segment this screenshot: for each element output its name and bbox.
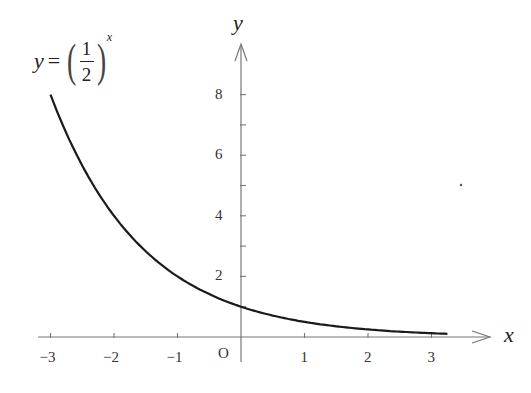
- x-tick-label: −1: [167, 350, 183, 365]
- x-tick-label: 3: [428, 350, 436, 365]
- formula-fraction: 1 2: [80, 39, 94, 84]
- y-tick-label: 2: [215, 268, 223, 283]
- formula-equals: =: [48, 48, 60, 74]
- stray-dot: [460, 184, 462, 186]
- y-tick-label: 4: [215, 208, 223, 223]
- x-axis-label: x: [504, 324, 514, 346]
- x-tick-label: −2: [103, 350, 119, 365]
- right-paren: ): [97, 38, 106, 84]
- x-tick-label: −3: [40, 350, 56, 365]
- denominator: 2: [82, 65, 92, 84]
- formula-lhs: y: [34, 48, 44, 74]
- formula-exponent: x: [107, 30, 112, 45]
- numerator: 1: [82, 39, 92, 58]
- x-tick-label: 1: [301, 350, 309, 365]
- exponential-curve: [51, 95, 448, 334]
- x-tick-label: 2: [364, 350, 372, 365]
- fraction-bar: [80, 61, 94, 62]
- function-formula: y = ( 1 2 ) x: [34, 36, 112, 86]
- origin-label: O: [218, 346, 229, 361]
- left-paren: (: [67, 38, 76, 84]
- y-tick-label: 6: [215, 147, 223, 162]
- y-tick-label: 8: [215, 87, 223, 102]
- y-axis-label: y: [233, 12, 243, 34]
